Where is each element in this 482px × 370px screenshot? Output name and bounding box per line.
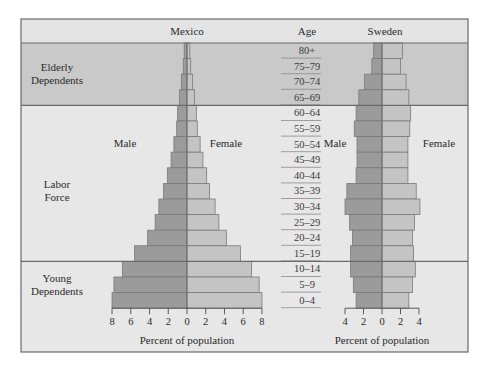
- x-tick-label: 2: [398, 316, 403, 327]
- bar-male: [356, 293, 382, 309]
- bar-male: [364, 74, 382, 90]
- bar-female: [382, 105, 411, 121]
- bar-male: [351, 261, 382, 277]
- bar-female: [382, 90, 409, 106]
- bar-female: [382, 168, 408, 184]
- bar-female: [187, 261, 252, 277]
- x-tick-label: 8: [259, 316, 264, 327]
- bar-female: [382, 215, 414, 231]
- bar-male: [180, 90, 187, 106]
- age-label: 80+: [279, 45, 335, 56]
- bar-male: [359, 90, 382, 106]
- bar-male: [350, 215, 382, 231]
- bar-male: [357, 137, 382, 153]
- bar-male: [356, 105, 382, 121]
- age-label: 55–59: [279, 123, 335, 134]
- x-tick-label: 0: [379, 316, 384, 327]
- bar-female: [382, 137, 408, 153]
- age-label: 65–69: [279, 92, 335, 103]
- age-label: 35–39: [279, 185, 335, 196]
- age-label: 30–34: [279, 201, 335, 212]
- bar-male: [135, 246, 187, 262]
- x-tick-label: 6: [128, 316, 133, 327]
- mexico-female-label: Female: [210, 137, 242, 149]
- bar-female: [382, 230, 413, 246]
- age-label: 0–4: [279, 295, 335, 306]
- bar-male: [357, 152, 382, 168]
- bar-female: [187, 105, 196, 121]
- age-label: 50–54: [279, 139, 335, 150]
- x-tick-label: 2: [203, 316, 208, 327]
- band-label-elderly: Elderly Dependents: [31, 61, 83, 87]
- bar-female: [382, 121, 410, 137]
- bar-male: [178, 105, 187, 121]
- bar-female: [187, 199, 215, 215]
- bar-male: [374, 43, 382, 59]
- x-tick-label: 6: [241, 316, 246, 327]
- bar-male: [354, 121, 382, 137]
- bar-female: [382, 152, 408, 168]
- band-label-labor-force: Labor Force: [44, 178, 70, 204]
- bar-female: [187, 215, 219, 231]
- sweden-x-axis-label: Percent of population: [335, 334, 430, 346]
- bar-male: [159, 199, 187, 215]
- bar-male: [353, 277, 382, 293]
- bar-male: [148, 230, 187, 246]
- mexico-title: Mexico: [170, 25, 204, 37]
- bar-female: [382, 199, 420, 215]
- age-label: 15–19: [279, 248, 335, 259]
- bar-female: [187, 277, 259, 293]
- bar-male: [372, 59, 382, 75]
- bar-female: [382, 277, 413, 293]
- bar-male: [181, 74, 187, 90]
- x-tick-label: 2: [361, 316, 366, 327]
- bar-male: [351, 246, 382, 262]
- bar-male: [112, 293, 187, 309]
- bar-female: [187, 90, 194, 106]
- bar-female: [187, 59, 191, 75]
- bar-female: [187, 183, 209, 199]
- age-label: 75–79: [279, 61, 335, 72]
- bar-female: [382, 293, 409, 309]
- age-label: 25–29: [279, 217, 335, 228]
- bar-male: [164, 183, 187, 199]
- bar-female: [187, 74, 193, 90]
- bar-male: [352, 230, 382, 246]
- bar-female: [382, 246, 413, 262]
- sweden-female-label: Female: [423, 137, 455, 149]
- population-pyramid-chart: [0, 0, 482, 370]
- bar-female: [382, 74, 406, 90]
- bar-female: [187, 246, 240, 262]
- age-label: 45–49: [279, 154, 335, 165]
- bar-female: [187, 168, 207, 184]
- age-label: 5–9: [279, 279, 335, 290]
- x-tick-label: 4: [342, 316, 347, 327]
- bar-male: [155, 215, 187, 231]
- x-tick-label: 2: [166, 316, 171, 327]
- bar-male: [171, 152, 187, 168]
- sweden-title: Sweden: [368, 25, 403, 37]
- age-label: 10–14: [279, 263, 335, 274]
- bar-female: [187, 293, 262, 309]
- age-label: 70–74: [279, 76, 335, 87]
- bar-female: [187, 121, 197, 137]
- mexico-x-axis-label: Percent of population: [140, 334, 235, 346]
- bar-female: [382, 59, 401, 75]
- age-label: 20–24: [279, 232, 335, 243]
- bar-female: [187, 137, 200, 153]
- bar-male: [114, 277, 187, 293]
- x-tick-label: 0: [184, 316, 189, 327]
- age-label: 40–44: [279, 170, 335, 181]
- bar-female: [187, 152, 203, 168]
- x-tick-label: 4: [147, 316, 152, 327]
- age-column-title: Age: [298, 25, 316, 37]
- x-tick-label: 4: [416, 316, 421, 327]
- bar-male: [122, 261, 187, 277]
- bar-male: [174, 137, 187, 153]
- bar-male: [167, 168, 187, 184]
- age-label: 60–64: [279, 107, 335, 118]
- bar-female: [382, 43, 402, 59]
- bar-male: [345, 199, 382, 215]
- bar-female: [382, 261, 415, 277]
- bar-male: [183, 59, 187, 75]
